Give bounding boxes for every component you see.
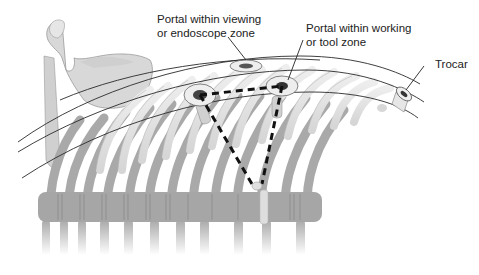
trocar-label: Trocar (435, 57, 468, 71)
viewing-portal (230, 60, 262, 72)
viewing-portal-label: Portal within viewing or endoscope zone (157, 12, 261, 40)
trocar-label-text: Trocar (435, 57, 468, 71)
working-portal-label-line1: Portal within working (306, 21, 411, 35)
spine (38, 190, 322, 224)
lower-rib-stubs (42, 220, 305, 255)
working-portal-label: Portal within working or tool zone (306, 21, 411, 49)
viewing-portal-label-line1: Portal within viewing (157, 12, 261, 26)
viewing-portal-label-line2: or endoscope zone (157, 26, 261, 40)
working-portal-label-line2: or tool zone (306, 35, 411, 49)
target-point (252, 182, 262, 190)
